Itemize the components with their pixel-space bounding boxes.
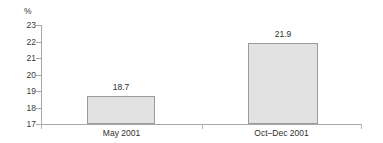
y-axis-tick-label: 23 xyxy=(2,21,36,30)
y-axis-tick-label-wrap: 21 xyxy=(0,54,36,63)
x-axis-category-label: Oct–Dec 2001 xyxy=(202,128,361,138)
y-axis-tick-label: 20 xyxy=(2,71,36,80)
y-axis-tick-label: 19 xyxy=(2,87,36,96)
bar[interactable] xyxy=(248,43,318,124)
y-axis-tick xyxy=(36,108,42,109)
bar-chart: % 23222120191817 18.7May 200121.9Oct–Dec… xyxy=(0,0,383,143)
y-axis-tick xyxy=(36,42,42,43)
y-axis-tick-label-wrap: 18 xyxy=(0,104,36,113)
x-axis-category-label: May 2001 xyxy=(41,128,202,138)
bar-value-label: 21.9 xyxy=(248,30,318,39)
y-axis-tick-label: 17 xyxy=(2,120,36,129)
y-axis-tick-label-wrap: 19 xyxy=(0,87,36,96)
y-axis-tick-label: 22 xyxy=(2,38,36,47)
bar-value-label: 18.7 xyxy=(87,83,155,92)
y-axis-tick-label-wrap: 17 xyxy=(0,120,36,129)
y-axis-tick-label-wrap: 23 xyxy=(0,21,36,30)
y-axis-tick-label: 21 xyxy=(2,54,36,63)
y-axis-tick xyxy=(36,75,42,76)
y-axis-tick-label: 18 xyxy=(2,104,36,113)
y-axis-unit-label: % xyxy=(24,7,32,16)
y-axis-tick xyxy=(36,25,42,26)
y-axis-tick xyxy=(36,58,42,59)
y-axis-tick-label-wrap: 20 xyxy=(0,71,36,80)
x-axis-tick-end xyxy=(361,124,362,129)
y-axis-tick xyxy=(36,91,42,92)
y-axis-tick-label-wrap: 22 xyxy=(0,38,36,47)
bar[interactable] xyxy=(87,96,155,124)
